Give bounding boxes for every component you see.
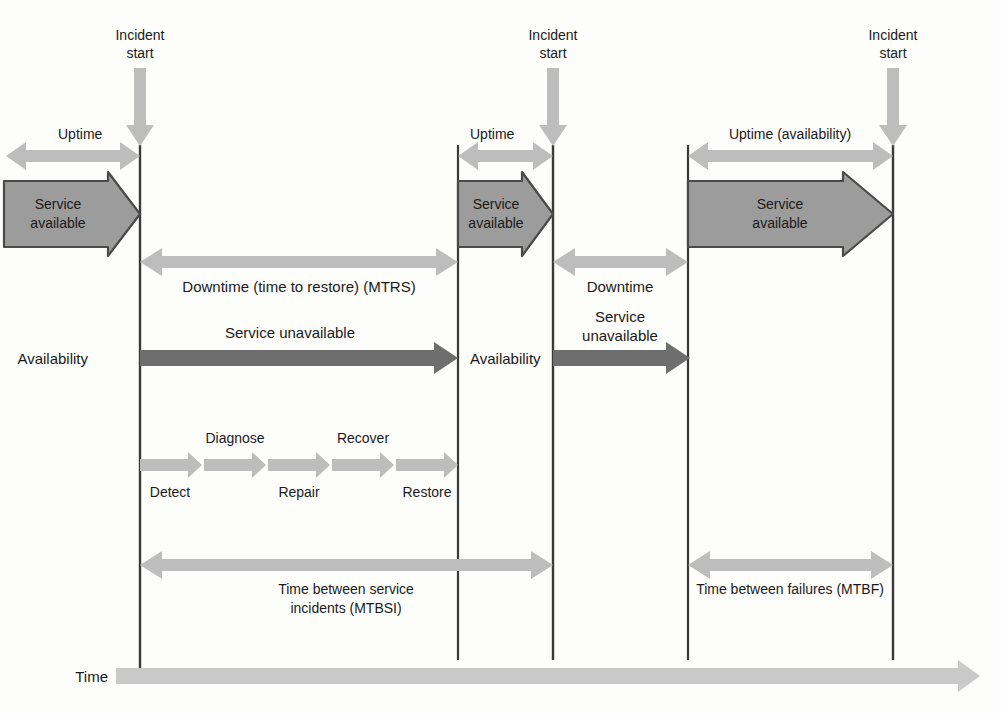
- availability-label-left: Availability: [17, 350, 88, 367]
- incident-start-label-3-line2: start: [879, 45, 906, 61]
- availability-label-mid: Availability: [470, 350, 541, 367]
- service-unavailable-label-2-line2: unavailable: [582, 327, 658, 344]
- stage-label-repair: Repair: [278, 484, 320, 500]
- incident-start-label-1-line2: start: [126, 45, 153, 61]
- stage-label-recover: Recover: [337, 430, 389, 446]
- stage-label-restore: Restore: [402, 484, 451, 500]
- service-available-label-1-line2: available: [30, 215, 85, 231]
- downtime-label-2: Downtime: [587, 278, 654, 295]
- uptime-label-3: Uptime (availability): [729, 126, 851, 142]
- service-available-label-3-line1: Service: [757, 196, 804, 212]
- incident-start-label-3-line1: Incident: [868, 27, 917, 43]
- service-unavailable-label-1: Service unavailable: [225, 324, 355, 341]
- mtbsi-label-line2: incidents (MTBSI): [290, 600, 401, 616]
- stage-label-detect: Detect: [150, 484, 191, 500]
- availability-timeline-diagram: Incident start Incident start Incident s…: [0, 0, 1001, 713]
- uptime-label-1: Uptime: [58, 126, 103, 142]
- incident-start-label-2-line1: Incident: [528, 27, 577, 43]
- service-available-label-1-line1: Service: [35, 196, 82, 212]
- service-unavailable-label-2-line1: Service: [595, 308, 645, 325]
- incident-start-label-2-line2: start: [539, 45, 566, 61]
- time-axis-label: Time: [75, 668, 108, 685]
- service-available-label-2-line2: available: [468, 215, 523, 231]
- stage-label-diagnose: Diagnose: [205, 430, 264, 446]
- incident-start-label-1-line1: Incident: [115, 27, 164, 43]
- downtime-mtrs-label: Downtime (time to restore) (MTRS): [182, 278, 415, 295]
- uptime-label-2: Uptime: [470, 126, 515, 142]
- service-available-label-3-line2: available: [752, 215, 807, 231]
- mtbf-label: Time between failures (MTBF): [696, 581, 884, 597]
- mtbsi-label-line1: Time between service: [278, 581, 414, 597]
- service-available-label-2-line1: Service: [473, 196, 520, 212]
